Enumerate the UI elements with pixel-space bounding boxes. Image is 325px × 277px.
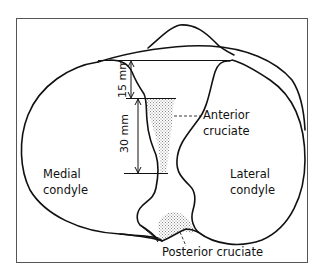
- posterior-cruciate-attachment: [158, 212, 193, 240]
- medial-condyle-label-line2: condyle: [43, 183, 88, 197]
- intercondylar-lateral-border: [177, 61, 230, 232]
- posterior-cruciate-label: Posterior cruciate: [162, 245, 263, 259]
- posterior-cruciate-leader: [180, 232, 186, 246]
- tibial-tuberosity-outline: [148, 25, 234, 55]
- anterior-cruciate-label-line2: cruciate: [203, 124, 250, 138]
- lateral-condyle-label-line1: Lateral: [230, 167, 270, 181]
- dimension-15mm-label: 15 mm: [116, 59, 129, 98]
- lateral-condyle-outline: [198, 60, 305, 244]
- tibial-plateau-diagram: 15 mm 30 mm Anterior cruciate Medial con…: [0, 0, 325, 277]
- anterior-cruciate-label-line1: Anterior: [203, 108, 250, 122]
- medial-condyle-label-line1: Medial: [43, 167, 81, 181]
- lateral-condyle-label-line2: condyle: [230, 183, 275, 197]
- dimension-30mm-label: 30 mm: [118, 114, 131, 153]
